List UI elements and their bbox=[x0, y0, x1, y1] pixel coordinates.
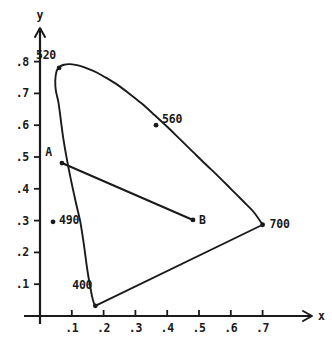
data-point-marker-490 bbox=[51, 219, 56, 224]
annotation-labels-group: 400490520560700AB bbox=[36, 48, 290, 292]
x-axis-tick-label: .2 bbox=[97, 321, 110, 335]
x-axis-tick-label: .1 bbox=[65, 321, 79, 335]
data-point-label-700: 700 bbox=[270, 217, 290, 231]
data-point-label-A: A bbox=[45, 145, 52, 159]
data-point-marker-400 bbox=[93, 303, 98, 308]
y-axis-tick-label: .8 bbox=[16, 55, 30, 69]
data-point-label-560: 560 bbox=[162, 112, 182, 126]
data-point-label-400: 400 bbox=[72, 278, 92, 292]
y-axis-tick-label: .7 bbox=[16, 86, 30, 100]
y-axis-tick-label: .6 bbox=[16, 118, 30, 132]
y-axis-tick-label: .1 bbox=[16, 277, 30, 291]
data-point-marker-B bbox=[191, 218, 196, 223]
data-point-marker-520 bbox=[57, 66, 62, 71]
y-axis-name: y bbox=[37, 8, 44, 22]
ticks-group bbox=[34, 62, 263, 316]
y-axis-tick-label: .3 bbox=[16, 214, 30, 228]
x-axis-tick-label: .4 bbox=[161, 321, 175, 335]
x-axis-tick-label: .6 bbox=[224, 321, 238, 335]
tick-labels-group: .1.2.3.4.5.6.7.1.2.3.4.5.6.7.8 bbox=[16, 55, 270, 335]
data-point-marker-700 bbox=[260, 222, 265, 227]
series-purple-line bbox=[95, 225, 262, 306]
x-axis-tick-label: .5 bbox=[192, 321, 206, 335]
x-axis-tick-label: .3 bbox=[129, 321, 143, 335]
axes-group bbox=[24, 28, 312, 324]
axis-names-group: yx bbox=[37, 8, 325, 323]
data-point-label-520: 520 bbox=[36, 48, 56, 62]
data-curves-group bbox=[55, 64, 262, 306]
data-point-label-B: B bbox=[199, 213, 206, 227]
chromaticity-diagram: .1.2.3.4.5.6.7.1.2.3.4.5.6.7.8 400490520… bbox=[0, 0, 332, 349]
data-point-marker-560 bbox=[154, 123, 159, 128]
series-segment-AB bbox=[62, 163, 193, 220]
y-axis-tick-label: .2 bbox=[16, 245, 29, 259]
x-axis-tick-label: .7 bbox=[256, 321, 270, 335]
x-axis-name: x bbox=[318, 309, 325, 323]
chart-canvas: .1.2.3.4.5.6.7.1.2.3.4.5.6.7.8 400490520… bbox=[0, 0, 332, 349]
y-axis-tick-label: .4 bbox=[16, 182, 30, 196]
data-point-label-490: 490 bbox=[59, 213, 79, 227]
series-spectral-locus bbox=[55, 64, 262, 306]
data-point-marker-A bbox=[60, 161, 65, 166]
y-axis-tick-label: .5 bbox=[16, 150, 30, 164]
data-markers-group bbox=[51, 66, 265, 309]
